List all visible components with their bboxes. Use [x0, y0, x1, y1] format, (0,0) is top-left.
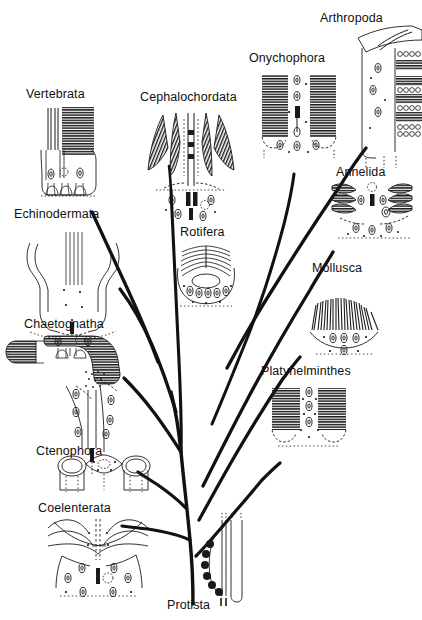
diagram-echinodermata	[27, 232, 119, 358]
branch-onychophora	[212, 174, 294, 424]
label-ctenophora: Ctenophora	[36, 445, 102, 458]
branch-mollusca	[199, 357, 300, 520]
label-platyhelminthes: Platyhelminthes	[261, 365, 351, 378]
branch-ctenophora	[138, 472, 186, 508]
phylogenetic-tree-figure: Vertebrata Cephalochordata Onychophora A…	[0, 0, 422, 620]
label-arthropoda: Arthropoda	[320, 12, 383, 25]
diagram-vertebrata	[41, 107, 96, 196]
diagram-cephalochordata	[148, 113, 234, 221]
diagram-protista	[201, 512, 242, 606]
label-echinodermata: Echinodermata	[14, 208, 99, 221]
label-annelida: Annelida	[336, 166, 385, 179]
branch-platyhelminthes	[196, 463, 280, 556]
diagram-annelida	[332, 183, 412, 239]
label-chaetognatha: Chaetognatha	[24, 318, 104, 331]
branch-cephalochordata-upper	[169, 166, 171, 190]
branch-coelenterata	[122, 526, 190, 540]
branch-trunk	[171, 392, 193, 604]
label-cephalochordata: Cephalochordata	[140, 91, 237, 104]
diagram-platyhelminthes	[272, 387, 346, 446]
diagram-ctenophora	[58, 455, 150, 492]
label-mollusca: Mollusca	[312, 262, 362, 275]
branch-arthropoda	[227, 148, 366, 368]
branch-chaetognatha	[124, 378, 181, 452]
label-protista: Protista	[167, 599, 210, 612]
label-coelenterata: Coelenterata	[38, 502, 111, 515]
diagram-arthropoda	[358, 26, 422, 168]
branch-vertebrata	[92, 212, 158, 362]
label-rotifera: Rotifera	[180, 226, 225, 239]
diagram-rotifera	[178, 246, 235, 306]
diagram-mollusca	[310, 298, 378, 355]
branch-echinodermata	[120, 289, 176, 412]
diagram-onychophora	[262, 75, 336, 158]
label-vertebrata: Vertebrata	[26, 88, 85, 101]
label-onychophora: Onychophora	[249, 52, 325, 65]
diagram-coelenterata	[48, 519, 148, 597]
